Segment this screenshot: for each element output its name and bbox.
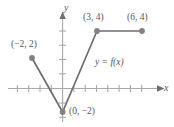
point-label-6-4: (6, 4) [127, 13, 148, 23]
x-axis [8, 85, 165, 92]
data-point-marker [139, 28, 145, 34]
x-axis-label: x [164, 83, 168, 93]
data-points [29, 28, 145, 115]
graph-figure: (−2, 2) (0, −2) (3, 4) (6, 4) y = f(x) y… [0, 0, 174, 127]
point-label-neg2-2: (−2, 2) [11, 40, 37, 50]
data-point-marker [29, 55, 35, 61]
y-axis-label: y [64, 3, 68, 13]
data-point-marker [94, 28, 100, 34]
point-label-3-4: (3, 4) [83, 13, 104, 23]
point-label-0-neg2: (0, −2) [69, 107, 95, 117]
function-equation-label: y = f(x) [95, 58, 124, 68]
function-curve [32, 31, 142, 112]
data-point-marker [60, 109, 66, 115]
